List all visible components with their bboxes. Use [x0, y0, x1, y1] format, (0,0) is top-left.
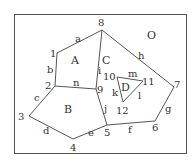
- edge-label-h: h: [138, 50, 145, 61]
- region-label-D: D: [121, 81, 130, 94]
- region-label-B: B: [64, 103, 72, 116]
- vertex-label-2: 2: [45, 80, 51, 91]
- edge-label-m: m: [128, 68, 138, 79]
- graph-diagram: abcdefghijnmlk 123456789101112 ABCDO: [0, 0, 196, 165]
- vertex-label-4: 4: [70, 142, 76, 153]
- edge-label-k: k: [112, 87, 119, 98]
- edge-label-f: f: [128, 124, 133, 135]
- edge-label-i: i: [98, 65, 101, 76]
- edge-label-n: n: [73, 77, 80, 88]
- edge-label-e: e: [88, 127, 94, 138]
- edge-label-c: c: [34, 92, 40, 103]
- vertex-label-12: 12: [116, 105, 129, 116]
- vertex-label-9: 9: [97, 84, 103, 95]
- vertex-label-7: 7: [174, 79, 180, 90]
- edge-label-b: b: [47, 64, 53, 75]
- vertex-label-11: 11: [142, 76, 155, 87]
- vertex-label-6: 6: [152, 122, 158, 133]
- edge-label-j: j: [103, 103, 107, 114]
- edge-label-d: d: [43, 125, 50, 136]
- region-label-A: A: [70, 54, 80, 67]
- vertex-label-10: 10: [103, 71, 116, 82]
- edge-label-l: l: [138, 90, 141, 101]
- vertex-label-3: 3: [18, 111, 24, 122]
- vertex-label-1: 1: [50, 48, 56, 59]
- edge-label-a: a: [75, 33, 81, 44]
- edge-label-g: g: [165, 103, 172, 114]
- region-label-O: O: [147, 29, 156, 42]
- vertex-label-8: 8: [98, 17, 104, 28]
- vertex-label-5: 5: [104, 127, 110, 138]
- edge-d: [29, 116, 73, 139]
- region-label-C: C: [102, 54, 110, 67]
